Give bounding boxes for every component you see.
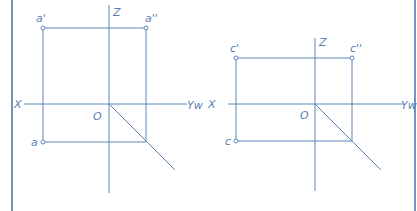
- left-x-label: X: [13, 98, 22, 111]
- right-yw-label: Yw: [401, 99, 417, 112]
- label-a: a: [31, 136, 38, 149]
- left-origin-label: O: [93, 110, 102, 123]
- point-c-double-prime-marker: [350, 56, 354, 60]
- point-a-marker: [41, 140, 45, 144]
- right-z-label: Z: [318, 36, 327, 49]
- label-c-prime: c': [230, 42, 239, 55]
- point-c-marker: [234, 139, 238, 143]
- right-diagram: Z X Yw O c' c'' c: [207, 36, 417, 191]
- left-diagram: Z X Yw O a' a'' a: [13, 5, 203, 193]
- projection-diagram: Z X Yw O a' a'' a Z X Yw O c' c'' c: [0, 0, 417, 211]
- left-yw-label: Yw: [187, 99, 203, 112]
- right-origin-label: O: [300, 109, 309, 122]
- projection-diagram-canvas: Z X Yw O a' a'' a Z X Yw O c' c'' c: [0, 0, 417, 211]
- point-c-prime-marker: [234, 56, 238, 60]
- left-45-degree-line: [109, 104, 175, 170]
- point-a-prime-marker: [41, 26, 45, 30]
- point-a-double-prime-marker: [144, 26, 148, 30]
- left-z-label: Z: [112, 6, 121, 19]
- label-a-double-prime: a'': [145, 12, 158, 25]
- right-x-label: X: [207, 98, 216, 111]
- label-c-double-prime: c'': [350, 42, 362, 55]
- label-c: c: [225, 135, 231, 148]
- right-45-degree-line: [315, 104, 381, 170]
- label-a-prime: a': [36, 12, 46, 25]
